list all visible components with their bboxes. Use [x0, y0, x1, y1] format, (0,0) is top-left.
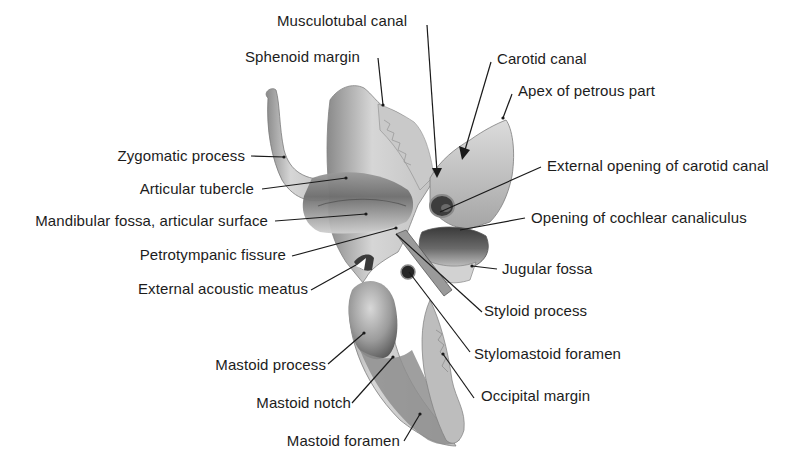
- label-mastoid-foramen: Mastoid foramen: [287, 432, 400, 450]
- label-zygomatic-process: Zygomatic process: [117, 147, 245, 165]
- label-carotid-canal: Carotid canal: [497, 50, 587, 68]
- label-mastoid-notch: Mastoid notch: [256, 394, 351, 412]
- label-styloid-process: Styloid process: [484, 302, 587, 320]
- label-mastoid-process: Mastoid process: [215, 356, 326, 374]
- label-external-acoustic-meatus: External acoustic meatus: [138, 280, 308, 298]
- label-musculotubal-canal: Musculotubal canal: [277, 12, 407, 30]
- label-petrotympanic-fissure: Petrotympanic fissure: [140, 246, 286, 264]
- label-mandibular-fossa: Mandibular fossa, articular surface: [35, 212, 268, 230]
- label-apex-petrous-part: Apex of petrous part: [518, 82, 655, 100]
- label-occipital-margin: Occipital margin: [481, 387, 590, 405]
- label-jugular-fossa: Jugular fossa: [502, 260, 593, 278]
- label-opening-cochlear-canaliculus: Opening of cochlear canaliculus: [531, 209, 747, 227]
- label-stylomastoid-foramen: Stylomastoid foramen: [474, 345, 621, 363]
- label-sphenoid-margin: Sphenoid margin: [245, 48, 360, 66]
- anatomy-figure: Musculotubal canal Sphenoid margin Carot…: [0, 0, 794, 462]
- temporal-bone-illustration: [0, 0, 794, 462]
- label-external-opening-carotid-canal: External opening of carotid canal: [547, 157, 769, 175]
- label-articular-tubercle: Articular tubercle: [140, 180, 254, 198]
